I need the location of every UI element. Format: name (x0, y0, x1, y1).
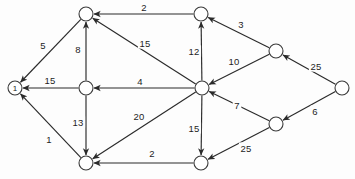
edge-weight-label: 10 (229, 56, 240, 67)
graph-node[interactable] (194, 7, 208, 21)
graph-edge (201, 95, 202, 155)
edge-weight-label: 7 (234, 100, 239, 111)
edge-weight-label: 5 (40, 40, 45, 51)
graph-node[interactable] (269, 117, 283, 131)
graph-canvas: 1 515181321542012152310725256 (0, 0, 355, 179)
graph-node[interactable] (335, 81, 349, 95)
edge-weight-label: 6 (312, 106, 317, 117)
graph-edge (21, 19, 81, 82)
edge-weight-label: 20 (134, 111, 145, 122)
graph-node[interactable] (269, 44, 283, 58)
graph-edge (208, 127, 269, 159)
edge-weight-label: 13 (73, 117, 84, 128)
graph-node[interactable] (79, 7, 93, 21)
edge-labels-layer: 515181321542012152310725256 (39, 1, 323, 158)
edge-weight-label: 2 (149, 148, 154, 159)
edge-weight-label: 15 (189, 123, 200, 134)
graph-node[interactable] (79, 156, 93, 170)
edges-layer (20, 14, 335, 163)
edge-weight-label: 3 (238, 19, 243, 30)
graph-node[interactable] (195, 81, 209, 95)
graph-svg: 1 515181321542012152310725256 (0, 0, 355, 179)
edge-weight-label: 1 (46, 134, 51, 145)
edge-weight-label: 12 (189, 46, 200, 57)
graph-node[interactable] (79, 81, 93, 95)
graph-edge (201, 22, 202, 81)
edge-weight-label: 25 (241, 143, 252, 154)
graph-edge (283, 92, 335, 121)
edge-weight-label: 25 (311, 61, 322, 72)
node-label: 1 (13, 84, 18, 93)
edge-weight-label: 15 (140, 38, 151, 49)
graph-edge (93, 18, 196, 84)
edge-weight-label: 4 (137, 76, 142, 87)
edge-weight-label: 15 (45, 75, 56, 86)
graph-edge (93, 92, 196, 159)
edge-weight-label: 8 (75, 44, 80, 55)
graph-node[interactable] (194, 156, 208, 170)
edge-weight-label: 2 (141, 2, 146, 13)
